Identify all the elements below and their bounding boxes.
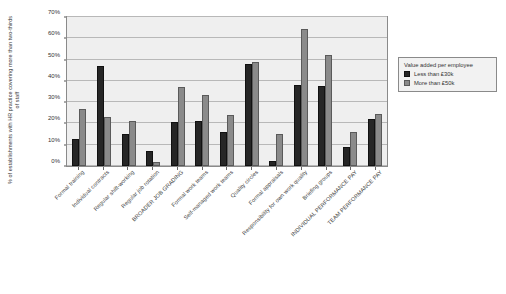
bar <box>294 85 301 166</box>
bar <box>227 115 234 166</box>
y-axis-tick-label: 70% <box>48 9 60 15</box>
y-axis-tick-label: 50% <box>48 52 60 58</box>
legend-label: More than £50k <box>414 80 454 86</box>
bar <box>252 62 259 166</box>
bar <box>220 132 227 166</box>
bar <box>178 87 185 166</box>
bar-group <box>141 17 166 166</box>
bar <box>97 66 104 166</box>
bar <box>153 162 160 166</box>
bar-group <box>190 17 215 166</box>
y-axis-tick-label: 60% <box>48 30 60 36</box>
bar-group <box>239 17 264 166</box>
bar <box>146 151 153 166</box>
bar-group <box>67 17 92 166</box>
legend-item[interactable]: Less than £30k <box>404 71 491 77</box>
bar-group <box>362 17 387 166</box>
x-axis-tick-labels: Formal trainingIndividual contractsRegul… <box>66 169 388 289</box>
legend-item[interactable]: More than £50k <box>404 80 491 86</box>
legend: Value added per employee Less than £30kM… <box>398 57 497 92</box>
legend-title: Value added per employee <box>404 62 491 68</box>
bar <box>72 139 79 166</box>
bar <box>129 121 136 166</box>
bar <box>276 134 283 166</box>
bar-group <box>215 17 240 166</box>
y-axis-tick-label: 0% <box>51 158 60 164</box>
y-axis-tick-label: 20% <box>48 115 60 121</box>
bar <box>195 121 202 166</box>
y-axis-tick-label: 30% <box>48 94 60 100</box>
legend-swatch-icon <box>404 80 410 86</box>
x-axis-tick-label: TEAM PERFORMANCE PAY <box>326 169 383 226</box>
bar-group <box>165 17 190 166</box>
plot-area <box>66 16 388 167</box>
bar <box>350 132 357 166</box>
bar <box>122 134 129 166</box>
bar-chart: % of establishments with HR practice cov… <box>0 0 506 294</box>
bar-group <box>116 17 141 166</box>
bar <box>104 117 111 166</box>
legend-label: Less than £30k <box>414 71 453 77</box>
y-axis-tick-label: 40% <box>48 73 60 79</box>
legend-swatch-icon <box>404 71 410 77</box>
bar <box>79 109 86 166</box>
bar <box>301 29 308 166</box>
bar <box>171 122 178 166</box>
y-axis-tick-label: 10% <box>48 137 60 143</box>
bar <box>318 86 325 166</box>
bar-group <box>264 17 289 166</box>
x-axis-tick-label: Self-managed work teams <box>182 169 234 221</box>
bar <box>269 161 276 166</box>
bar <box>245 64 252 166</box>
bar-groups <box>67 17 387 166</box>
bar <box>368 119 375 166</box>
legend-entries: Less than £30kMore than £50k <box>404 71 491 86</box>
bar-group <box>338 17 363 166</box>
bar <box>202 95 209 166</box>
y-axis-tick-labels: 0%10%20%30%40%50%60%70% <box>36 16 64 167</box>
bar <box>375 114 382 166</box>
bar <box>343 147 350 166</box>
bar-group <box>288 17 313 166</box>
y-axis-title: % of establishments with HR practice cov… <box>7 15 37 185</box>
bar-group <box>92 17 117 166</box>
bar <box>325 55 332 166</box>
bar-group <box>313 17 338 166</box>
